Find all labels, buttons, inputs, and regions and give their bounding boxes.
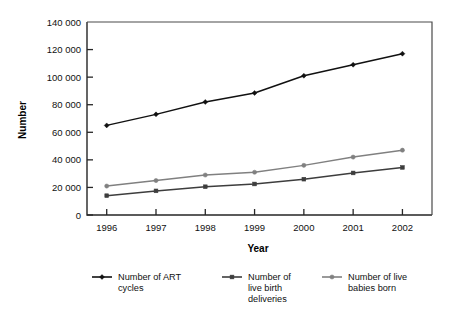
data-point-marker <box>351 171 355 175</box>
data-point-marker <box>302 177 306 181</box>
data-point-marker <box>203 173 207 177</box>
legend-label: deliveries <box>248 294 287 304</box>
data-point-marker <box>154 189 158 193</box>
data-point-marker <box>105 184 109 188</box>
y-tick-label: 140 000 <box>47 17 81 28</box>
x-tick-label: 2002 <box>392 222 413 233</box>
data-point-marker <box>351 155 355 159</box>
legend-label: Number of live <box>348 272 407 282</box>
x-tick-label: 1999 <box>244 222 265 233</box>
data-point-marker <box>105 194 109 198</box>
legend-label: live birth <box>248 283 282 293</box>
x-tick-label: 2001 <box>343 222 364 233</box>
y-tick-label: 120 000 <box>47 44 81 55</box>
legend-label: cycles <box>118 283 144 293</box>
x-tick-label: 2000 <box>293 222 314 233</box>
data-point-marker <box>401 166 405 170</box>
data-point-marker <box>203 185 207 189</box>
y-tick-label: 100 000 <box>47 72 81 83</box>
data-point-marker <box>230 275 234 279</box>
legend-label: Number of ART <box>118 272 182 282</box>
x-axis-title: Year <box>247 243 268 254</box>
data-point-marker <box>253 182 257 186</box>
x-tick-label: 1997 <box>145 222 166 233</box>
x-tick-label: 1998 <box>195 222 216 233</box>
y-tick-label: 60 000 <box>52 127 81 138</box>
data-point-marker <box>330 275 334 279</box>
data-point-marker <box>302 163 306 167</box>
data-point-marker <box>252 170 256 174</box>
y-tick-label: 80 000 <box>52 99 81 110</box>
y-axis-title: Number <box>17 101 28 139</box>
data-point-marker <box>154 178 158 182</box>
x-tick-label: 1996 <box>96 222 117 233</box>
y-tick-label: 40 000 <box>52 154 81 165</box>
legend-label: babies born <box>348 283 396 293</box>
chart-canvas: 020 00040 00060 00080 000100 000120 0001… <box>0 0 451 315</box>
line-chart: 020 00040 00060 00080 000100 000120 0001… <box>0 0 451 315</box>
y-tick-label: 20 000 <box>52 182 81 193</box>
data-point-marker <box>400 148 404 152</box>
y-tick-label: 0 <box>76 210 81 221</box>
legend-label: Number of <box>248 272 291 282</box>
